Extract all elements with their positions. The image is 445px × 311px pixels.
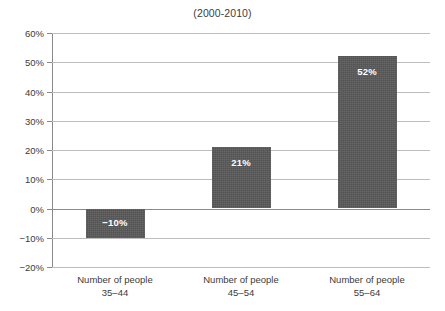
y-axis-tick-labels: 60%50%40%30%20%10%0%−10%−20% (0, 33, 44, 267)
y-axis-tick (47, 179, 52, 180)
y-axis-tick-label: 30% (0, 115, 44, 126)
category-label-line2: 35–44 (52, 287, 178, 300)
category-label-line1: Number of people (203, 274, 279, 285)
bar-value-label: 21% (212, 157, 271, 168)
y-axis-tick-label: 60% (0, 28, 44, 39)
y-axis-tick-label: 40% (0, 86, 44, 97)
y-axis-tick-label: 20% (0, 145, 44, 156)
x-axis-category-label: Number of people45–54 (178, 274, 304, 299)
category-label-line2: 45–54 (178, 287, 304, 300)
bar-value-label: 52% (338, 66, 397, 77)
y-axis-tick-label: −10% (0, 232, 44, 243)
category-label-line1: Number of people (77, 274, 153, 285)
category-label-line1: Number of people (329, 274, 405, 285)
y-axis-tick-label: −20% (0, 262, 44, 273)
bar-value-label: −10% (86, 217, 145, 228)
y-axis-tick (47, 209, 52, 210)
category-label-line2: 55–64 (304, 287, 430, 300)
y-axis-tick-label: 0% (0, 203, 44, 214)
y-axis-tick (47, 62, 52, 63)
bar[interactable]: 52% (338, 56, 397, 208)
x-axis-category-labels: Number of people35–44Number of people45–… (52, 274, 430, 308)
y-axis-tick (47, 33, 52, 34)
gridline (52, 267, 430, 268)
bar[interactable]: 21% (212, 147, 271, 208)
gridline (52, 33, 430, 34)
y-axis-tick (47, 150, 52, 151)
bar-chart: (2000-2010) 60%50%40%30%20%10%0%−10%−20%… (0, 0, 445, 311)
x-axis-category-label: Number of people55–64 (304, 274, 430, 299)
y-axis-tick (47, 121, 52, 122)
gridline (52, 238, 430, 239)
y-axis-tick (47, 92, 52, 93)
chart-title: (2000-2010) (0, 7, 445, 19)
y-axis-tick-label: 50% (0, 57, 44, 68)
y-axis-tick (47, 238, 52, 239)
plot-area: −10%21%52% (52, 33, 430, 267)
bar[interactable]: −10% (86, 209, 145, 238)
y-axis-tick (47, 267, 52, 268)
x-axis-category-label: Number of people35–44 (52, 274, 178, 299)
y-axis-tick-label: 10% (0, 174, 44, 185)
